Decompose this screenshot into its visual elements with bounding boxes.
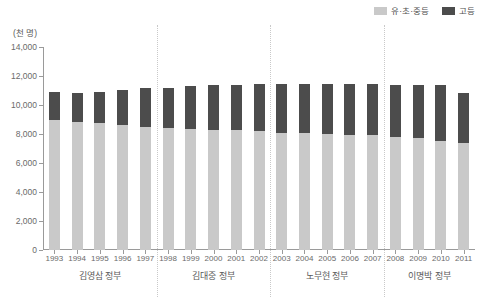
bar-segment-high bbox=[322, 84, 333, 134]
bar-segment-high bbox=[94, 92, 105, 123]
period-divider bbox=[157, 25, 158, 297]
x-axis-tick-label: 1998 bbox=[159, 255, 177, 263]
bar-segment-high bbox=[208, 85, 219, 129]
bar-2002[interactable] bbox=[254, 84, 265, 250]
x-axis-tick-label: 1999 bbox=[182, 255, 200, 263]
bar-segment-low bbox=[72, 122, 83, 250]
legend-item[interactable]: 고등 bbox=[442, 7, 475, 16]
bar-segment-high bbox=[49, 92, 60, 120]
bar-2011[interactable] bbox=[458, 93, 469, 250]
legend-label: 유·초·중등 bbox=[391, 7, 429, 16]
bar-segment-high bbox=[231, 85, 242, 131]
bar-segment-low bbox=[458, 143, 469, 250]
y-axis-tick-label: 10,000 bbox=[11, 101, 37, 110]
x-axis-tick-label: 1996 bbox=[114, 255, 132, 263]
chart-legend: 유·초·중등고등 bbox=[374, 4, 475, 18]
bar-segment-low bbox=[231, 130, 242, 250]
bar-1997[interactable] bbox=[140, 88, 151, 250]
bar-segment-low bbox=[299, 133, 310, 250]
x-axis-tick-label: 2011 bbox=[455, 255, 472, 263]
bar-segment-high bbox=[367, 84, 378, 135]
x-axis-tick-label: 2009 bbox=[409, 255, 427, 263]
bar-1998[interactable] bbox=[163, 88, 174, 250]
x-axis-tick-label: 2005 bbox=[318, 255, 336, 263]
x-axis-tick-label: 1993 bbox=[45, 255, 63, 263]
bar-segment-low bbox=[367, 135, 378, 250]
bar-2006[interactable] bbox=[344, 84, 355, 250]
bar-segment-low bbox=[322, 134, 333, 250]
plot-area: 02,0004,0006,0008,00010,00012,00014,0001… bbox=[43, 47, 475, 250]
legend-swatch-icon bbox=[442, 7, 455, 15]
legend-label: 고등 bbox=[459, 7, 475, 16]
bar-1993[interactable] bbox=[49, 92, 60, 250]
y-axis-tick-label: 0 bbox=[32, 246, 37, 255]
period-label: 김영삼 정부 bbox=[79, 272, 122, 281]
bar-2003[interactable] bbox=[276, 84, 287, 250]
bar-segment-high bbox=[72, 93, 83, 123]
bar-segment-high bbox=[140, 88, 151, 127]
bar-1999[interactable] bbox=[185, 86, 196, 250]
bar-segment-high bbox=[299, 84, 310, 133]
y-axis-tick bbox=[39, 221, 43, 222]
bar-1996[interactable] bbox=[117, 90, 128, 250]
bar-segment-high bbox=[413, 85, 424, 138]
y-axis-tick bbox=[39, 105, 43, 106]
y-axis-tick bbox=[39, 47, 43, 48]
y-axis-tick bbox=[39, 76, 43, 77]
y-axis-line bbox=[43, 47, 44, 250]
bar-segment-high bbox=[276, 84, 287, 133]
bar-segment-low bbox=[208, 130, 219, 250]
bar-segment-high bbox=[390, 85, 401, 137]
bar-1994[interactable] bbox=[72, 93, 83, 250]
period-label: 이명박 정부 bbox=[408, 272, 451, 281]
y-axis-tick bbox=[39, 192, 43, 193]
y-axis-tick-label: 4,000 bbox=[16, 188, 37, 197]
bar-segment-high bbox=[435, 85, 446, 141]
bar-segment-low bbox=[163, 128, 174, 250]
bar-1995[interactable] bbox=[94, 92, 105, 250]
x-axis-tick-label: 2001 bbox=[227, 255, 245, 263]
bar-2009[interactable] bbox=[413, 85, 424, 250]
bar-segment-low bbox=[49, 120, 60, 251]
x-axis-tick-label: 1994 bbox=[68, 255, 86, 263]
x-axis-tick-label: 2000 bbox=[205, 255, 223, 263]
bar-segment-low bbox=[435, 141, 446, 250]
y-axis-tick-label: 2,000 bbox=[16, 217, 37, 226]
y-axis-tick bbox=[39, 250, 43, 251]
bar-segment-high bbox=[117, 90, 128, 126]
period-label: 김대중 정부 bbox=[192, 272, 235, 281]
bar-2010[interactable] bbox=[435, 85, 446, 250]
bar-2007[interactable] bbox=[367, 84, 378, 250]
y-axis-tick-label: 8,000 bbox=[16, 130, 37, 139]
bar-2001[interactable] bbox=[231, 85, 242, 250]
y-axis-tick-label: 12,000 bbox=[11, 72, 37, 81]
x-axis-tick-label: 2007 bbox=[364, 255, 382, 263]
bar-segment-low bbox=[413, 138, 424, 250]
x-axis-tick-label: 2006 bbox=[341, 255, 359, 263]
bar-2004[interactable] bbox=[299, 84, 310, 250]
y-axis-unit-label: (천 명) bbox=[13, 26, 37, 38]
bar-segment-high bbox=[344, 84, 355, 135]
y-axis-tick-label: 6,000 bbox=[16, 159, 37, 168]
bar-segment-low bbox=[254, 131, 265, 250]
bar-segment-low bbox=[117, 125, 128, 250]
x-axis-tick-label: 1997 bbox=[136, 255, 154, 263]
bar-segment-low bbox=[344, 135, 355, 250]
bar-2005[interactable] bbox=[322, 84, 333, 250]
y-axis-tick bbox=[39, 163, 43, 164]
bar-2008[interactable] bbox=[390, 85, 401, 250]
x-axis-tick-label: 1995 bbox=[91, 255, 109, 263]
legend-item[interactable]: 유·초·중등 bbox=[374, 7, 429, 16]
bar-segment-high bbox=[163, 88, 174, 129]
bar-segment-high bbox=[458, 93, 469, 143]
bar-segment-low bbox=[185, 129, 196, 250]
chart-container: 유·초·중등고등 (천 명) 02,0004,0006,0008,00010,0… bbox=[0, 0, 481, 301]
x-axis-tick-label: 2002 bbox=[250, 255, 268, 263]
x-axis-tick-label: 2008 bbox=[387, 255, 405, 263]
bar-segment-high bbox=[254, 84, 265, 131]
bar-segment-low bbox=[140, 127, 151, 250]
y-axis-tick bbox=[39, 134, 43, 135]
bar-2000[interactable] bbox=[208, 85, 219, 250]
period-label: 노무현 정부 bbox=[306, 272, 349, 281]
x-axis-tick-label: 2003 bbox=[273, 255, 291, 263]
